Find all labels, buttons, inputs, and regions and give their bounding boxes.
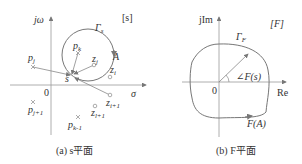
zero-zj-label: zj <box>92 54 98 66</box>
f-plane-tag: [F] <box>270 19 284 29</box>
pole-pk-label: pk <box>73 41 81 53</box>
angle-arc <box>226 75 229 82</box>
point-a-label: A <box>113 52 119 62</box>
sigma-axis-label: σ <box>131 89 136 99</box>
pole-pj1-label: pj+1 <box>28 105 43 117</box>
gamma-f-label: ΓF <box>236 32 246 44</box>
jw-axis-label: jω <box>34 15 44 25</box>
gamma-s-label: Γs <box>95 23 103 35</box>
test-point-s-label: s <box>65 74 69 84</box>
caption-s-plane: (a) s平面 <box>56 142 94 157</box>
pole-pk1-label: pk-1 <box>68 120 82 132</box>
s-plane-tag: [s] <box>122 13 133 23</box>
s-origin-label: 0 <box>44 88 49 98</box>
caption-f-plane: (b) F平面 <box>216 142 256 157</box>
gamma-s-contour <box>62 29 114 81</box>
angle-f-label: ∠F(s) <box>236 72 261 82</box>
f-origin-label: 0 <box>212 86 217 96</box>
zero-zi-label: zi <box>110 65 116 77</box>
zero-zl1-label: zl+1 <box>91 108 105 120</box>
f-a-label: F(A) <box>247 119 266 129</box>
f-plane-axes <box>182 17 286 137</box>
pole-pj-label: pj <box>28 53 35 65</box>
zero-zi1-label: zi+1 <box>106 98 120 110</box>
diagram-canvas <box>0 0 302 164</box>
re-axis-label: Re <box>277 88 288 98</box>
jim-axis-label: jIm <box>199 15 213 25</box>
